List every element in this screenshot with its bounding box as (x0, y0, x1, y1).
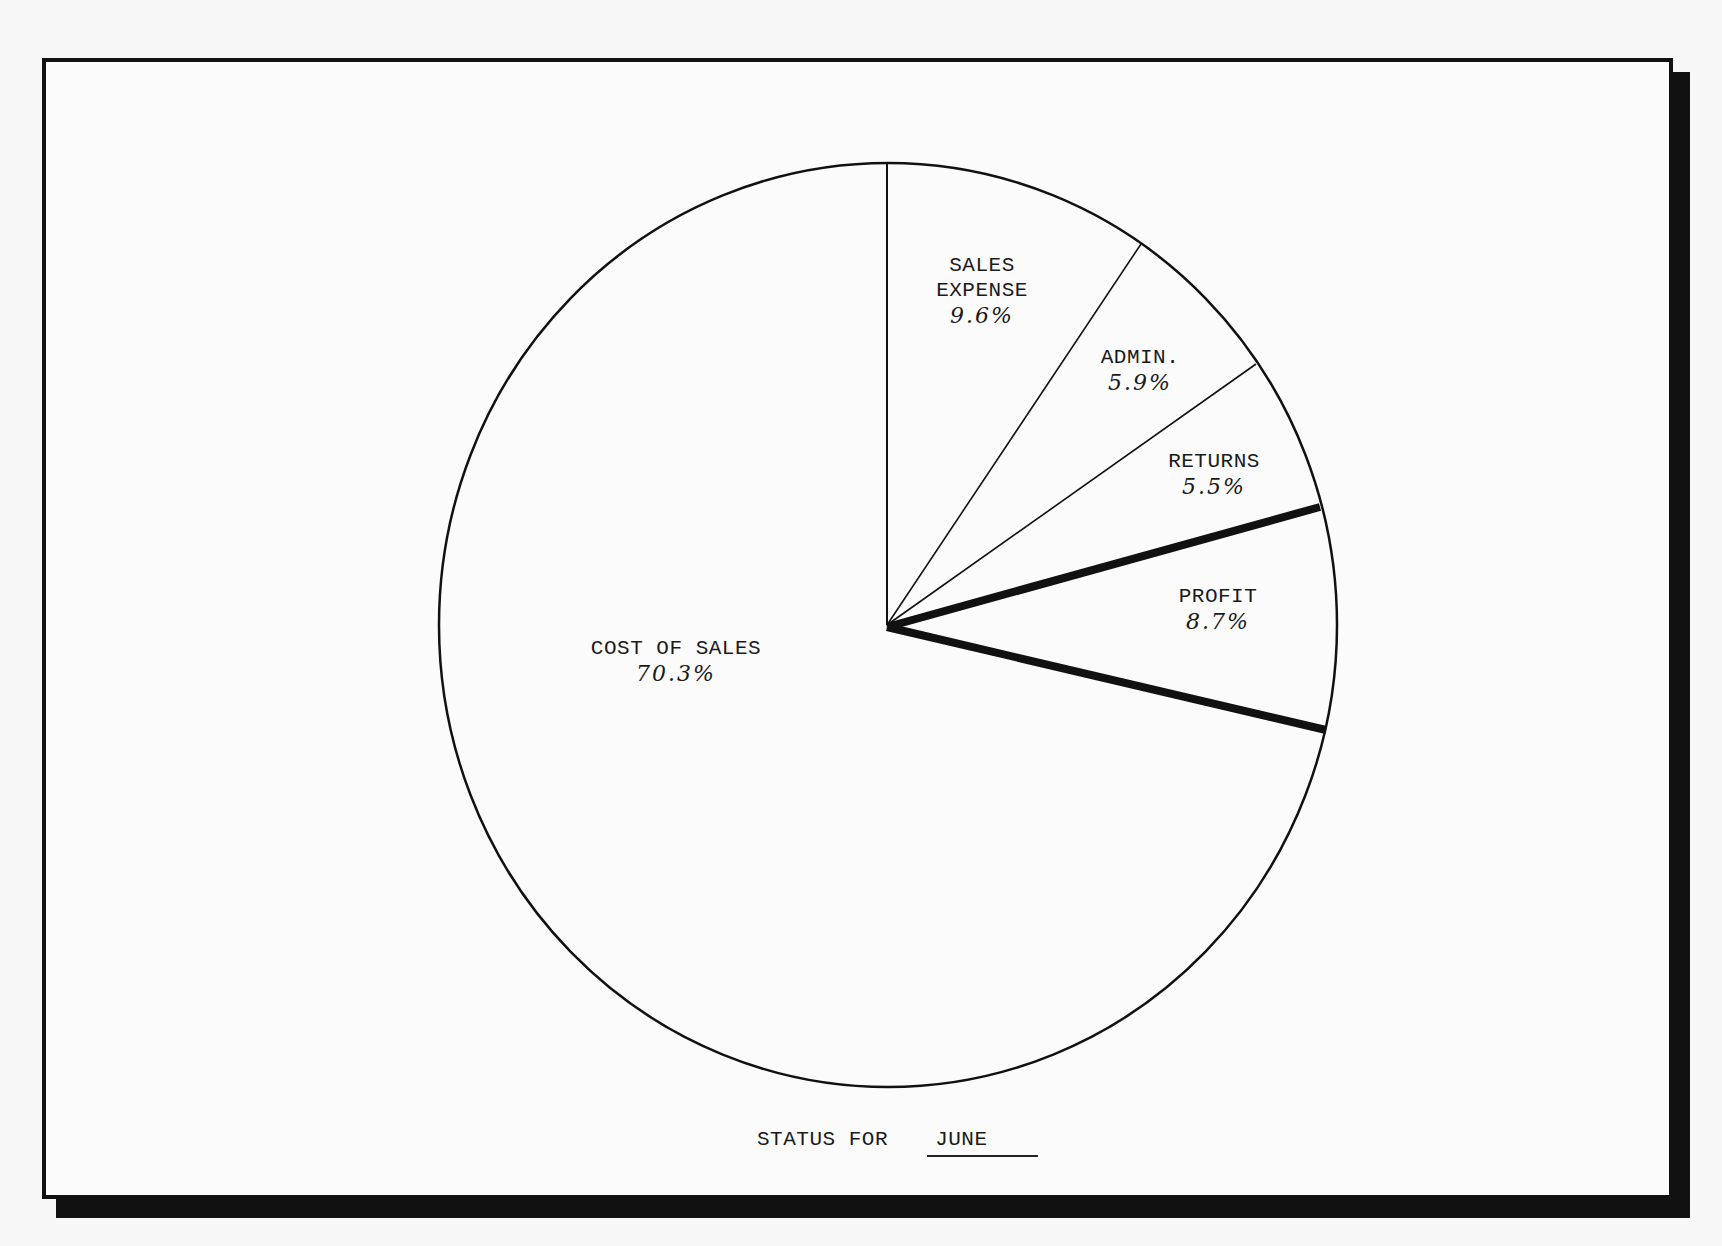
slice-label-admin: ADMIN. 5.9% (1101, 345, 1180, 395)
sales-expense-label-line1: SALES (936, 253, 1028, 278)
sales-expense-label-line2: EXPENSE (936, 278, 1028, 303)
returns-pct: 5.5% (1168, 474, 1260, 499)
caption-month: JUNE (927, 1128, 1037, 1157)
sales-expense-pct: 9.6% (936, 303, 1028, 328)
slice-label-profit: PROFIT 8.7% (1179, 584, 1258, 634)
pie-chart (0, 0, 1722, 1246)
admin-label: ADMIN. (1101, 345, 1180, 370)
caption-prefix: STATUS FOR (757, 1128, 888, 1151)
slice-label-returns: RETURNS 5.5% (1168, 449, 1260, 499)
chart-caption: STATUS FOR JUNE (757, 1128, 1038, 1157)
cost-of-sales-pct: 70.3% (591, 661, 761, 686)
cost-of-sales-label: COST OF SALES (591, 636, 761, 661)
profit-label: PROFIT (1179, 584, 1258, 609)
slice-label-cost-of-sales: COST OF SALES 70.3% (591, 636, 761, 686)
slice-label-sales-expense: SALES EXPENSE 9.6% (936, 253, 1028, 328)
admin-pct: 5.9% (1101, 370, 1180, 395)
returns-label: RETURNS (1168, 449, 1260, 474)
profit-pct: 8.7% (1179, 609, 1258, 634)
